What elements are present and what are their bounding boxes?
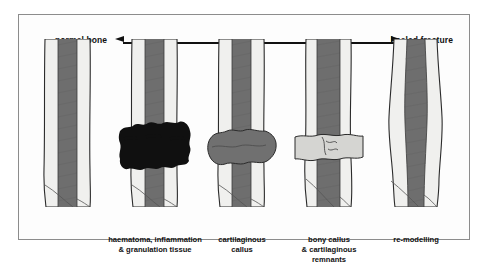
bony-callus-band	[295, 134, 363, 160]
bone-illustration-normal	[29, 39, 107, 207]
haematoma-blob	[119, 122, 191, 170]
bone-illustration-bony-callus	[290, 39, 368, 207]
stage-cartilaginous-callus: cartilaginous callus	[203, 39, 281, 207]
bone-illustration-remodelling	[377, 39, 455, 207]
bone-illustration-haematoma	[116, 39, 194, 207]
stage-haematoma: haematoma, inflammation & granulation ti…	[116, 39, 194, 207]
bone-illustration-cartilaginous	[203, 39, 281, 207]
caption-re-modelling: re-modelling	[361, 235, 471, 245]
diagram-panel: normal bone healed fracture	[18, 14, 470, 240]
stage-bony-callus: bony callus & cartilaginous remnants	[290, 39, 368, 207]
stage-normal-bone	[29, 39, 107, 207]
cartilaginous-callus-mass	[208, 129, 276, 164]
stage-re-modelling: re-modelling	[377, 39, 455, 207]
